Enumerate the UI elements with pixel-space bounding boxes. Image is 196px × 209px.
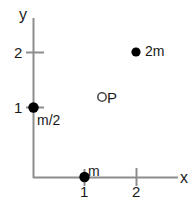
y-axis-label: y bbox=[19, 7, 27, 23]
point-p-label: P bbox=[107, 90, 117, 105]
coordinate-diagram: y x 2 1 1 2 m/2 m 2m P bbox=[0, 0, 196, 209]
mass-2m-label: 2m bbox=[145, 44, 164, 58]
x-tick-label-1: 1 bbox=[80, 184, 88, 199]
marker-mass-2m bbox=[131, 47, 140, 56]
x-tick-label-2: 2 bbox=[132, 184, 140, 199]
y-tick-label-1: 1 bbox=[14, 100, 22, 115]
mass-m-label: m bbox=[88, 164, 100, 178]
mass-half-m-label: m/2 bbox=[37, 113, 60, 127]
x-axis-label: x bbox=[180, 170, 188, 186]
marker-point-p bbox=[98, 93, 106, 101]
y-tick-label-2: 2 bbox=[14, 45, 22, 60]
